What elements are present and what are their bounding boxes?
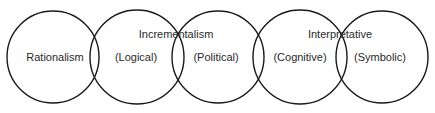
label-interpretative: Interpretative <box>308 28 372 40</box>
label-political: (Political) <box>193 51 238 63</box>
label-rationalism: Rationalism <box>26 51 83 63</box>
label-symbolic: (Symbolic) <box>354 51 406 63</box>
label-cognitive: (Cognitive) <box>273 51 326 63</box>
label-incrementalism: Incrementalism <box>139 28 214 40</box>
label-logical: (Logical) <box>115 51 157 63</box>
